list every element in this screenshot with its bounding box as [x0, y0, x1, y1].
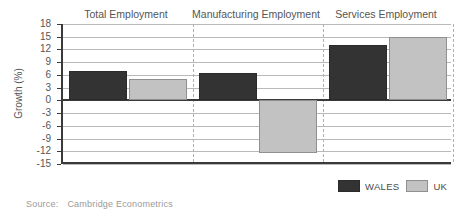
source-label: Source:: [26, 199, 58, 209]
source-text: Cambridge Econometrics: [67, 199, 172, 209]
y-tick-label: 12: [25, 44, 51, 54]
legend-item-wales: WALES: [338, 180, 399, 192]
y-tick-mark: [57, 164, 61, 165]
gridline: [63, 151, 451, 152]
y-tick-label: 3: [25, 83, 51, 93]
y-tick-label: 6: [25, 70, 51, 80]
group-separator: [323, 24, 325, 162]
gridline: [63, 164, 451, 165]
gridline: [63, 24, 451, 25]
bar-uk-1: [259, 100, 317, 153]
source-note: Source:Cambridge Econometrics: [26, 199, 173, 209]
y-tick-label: 18: [25, 19, 51, 29]
gridline: [63, 126, 451, 127]
group-separator: [193, 24, 195, 162]
bar-uk-0: [129, 79, 187, 100]
y-tick-label: 0: [25, 95, 51, 105]
bar-chart: Total Employment Manufacturing Employmen…: [0, 0, 462, 222]
y-axis-ticks: 1815129630-3-6-9-12-15: [26, 24, 56, 164]
y-tick-label: -9: [25, 134, 51, 144]
legend-label-wales: WALES: [365, 181, 399, 192]
legend-item-uk: UK: [406, 180, 447, 192]
category-header-total: Total Employment: [61, 6, 191, 22]
bar-wales-0: [69, 71, 127, 101]
y-tick-label: 15: [25, 32, 51, 42]
y-tick-label: 9: [25, 57, 51, 67]
bar-uk-2: [389, 37, 447, 101]
y-tick-label: -12: [25, 146, 51, 156]
group-separator: [453, 24, 455, 162]
bar-wales-1: [199, 73, 257, 101]
legend: WALES UK: [338, 178, 447, 194]
category-header-manufacturing: Manufacturing Employment: [191, 6, 321, 22]
y-tick-label: -15: [25, 159, 51, 169]
plot-area: [61, 24, 451, 164]
category-header-services: Services Employment: [321, 6, 451, 22]
y-axis-title: Growth (%): [13, 54, 24, 134]
y-tick-label: -6: [25, 121, 51, 131]
legend-swatch-wales: [338, 180, 360, 192]
gridline: [63, 139, 451, 140]
bar-wales-2: [329, 45, 387, 100]
legend-swatch-uk: [406, 180, 428, 192]
category-headers: Total Employment Manufacturing Employmen…: [61, 6, 451, 22]
y-tick-label: -3: [25, 108, 51, 118]
gridline: [63, 113, 451, 114]
legend-label-uk: UK: [433, 181, 447, 192]
